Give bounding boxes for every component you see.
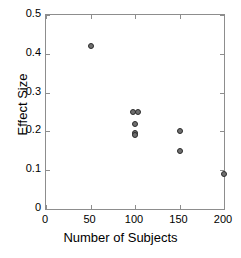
y-axis-tick-right [220,209,224,210]
data-point [177,148,183,154]
data-point [135,109,141,115]
y-axis-tick [46,15,50,16]
y-axis-tick [46,170,50,171]
y-axis-tick [46,93,50,94]
y-axis-tick [46,54,50,55]
x-axis-tick-top [180,15,181,19]
data-point [132,121,138,127]
x-axis-tick [224,205,225,209]
x-axis-tick-label: 0 [25,213,65,226]
x-axis-title: Number of Subjects [0,230,241,245]
y-axis-tick-right [220,93,224,94]
y-axis-tick-right [220,54,224,55]
x-axis-tick-top [91,15,92,19]
scatter-plot-figure: Number of Subjects Effect Size 050100150… [0,0,241,258]
x-axis-tick-label: 100 [114,213,154,226]
y-axis-tick-label: 0.2 [0,124,41,135]
y-axis-tick-label: 0.5 [0,8,41,19]
y-axis-tick-label: 0.3 [0,86,41,97]
x-axis-tick-label: 200 [203,213,241,226]
plot-area [45,14,225,210]
data-point [221,171,227,177]
x-axis-tick-label: 150 [159,213,199,226]
data-point [177,128,183,134]
x-axis-tick-top [224,15,225,19]
data-point [88,43,94,49]
y-axis-tick-right [220,131,224,132]
x-axis-tick [91,205,92,209]
y-axis-tick-label: 0.1 [0,163,41,174]
y-axis-title: Effect Size [15,45,30,165]
x-axis-tick-label: 50 [70,213,110,226]
y-axis-tick [46,209,50,210]
x-axis-tick [180,205,181,209]
y-axis-tick-right [220,15,224,16]
y-axis-tick [46,131,50,132]
data-point [132,132,138,138]
y-axis-tick-label: 0 [0,202,41,213]
x-axis-tick-top [135,15,136,19]
y-axis-tick-label: 0.4 [0,47,41,58]
x-axis-tick [135,205,136,209]
